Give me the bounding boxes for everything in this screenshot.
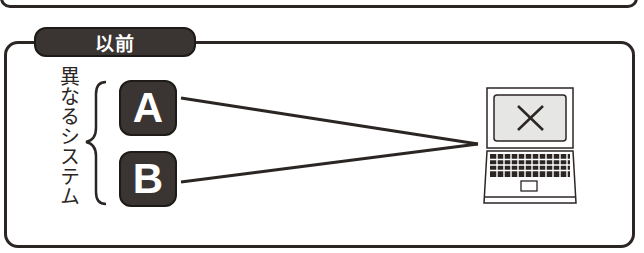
- connector-line-b: [181, 144, 478, 182]
- connector-layer: [0, 0, 644, 253]
- brace-icon: [86, 82, 106, 204]
- system-a-box: A: [119, 80, 177, 136]
- connector-line-a: [181, 98, 478, 144]
- laptop-icon: [484, 88, 576, 203]
- system-b-box: B: [119, 151, 177, 207]
